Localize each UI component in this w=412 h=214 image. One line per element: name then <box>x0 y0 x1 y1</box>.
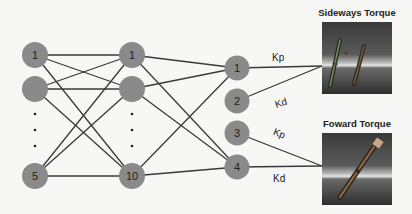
hidden-node-1-label: 1 <box>129 49 135 61</box>
output-layer: 1 2 3 4 <box>225 56 250 180</box>
ellipsis-dot <box>131 145 134 148</box>
neural-network-diagram: 1 5 1 10 1 2 3 <box>0 0 412 214</box>
pole-sideways-icon <box>322 22 392 94</box>
output-node-4-label: 4 <box>234 161 240 173</box>
ellipsis-dot <box>34 145 37 148</box>
kp-label-bottom: Kp <box>272 126 288 141</box>
hidden-node-10-label: 10 <box>126 170 138 182</box>
kp-label-top: Kp <box>272 52 285 63</box>
output-node-1-label: 1 <box>234 62 240 74</box>
input-node-5-label: 5 <box>32 170 38 182</box>
ellipsis-dot <box>34 129 37 132</box>
ellipsis-dot <box>34 113 37 116</box>
input-node-2 <box>22 76 48 102</box>
hidden-layer: 1 10 <box>119 42 145 189</box>
sideways-torque-title: Sideways Torque <box>312 7 402 18</box>
hidden-output-edges <box>132 55 237 176</box>
input-node-1-label: 1 <box>32 49 38 61</box>
forward-torque-title: Foward Torque <box>312 118 402 129</box>
forward-torque-image <box>322 133 392 205</box>
ellipsis-dot <box>131 129 134 132</box>
edge-labels: Kp Kd Kp Kd <box>272 52 289 184</box>
kd-label-bottom: Kd <box>273 173 285 184</box>
input-layer: 1 5 <box>22 42 48 189</box>
output-image-edges <box>237 66 322 167</box>
output-node-3-label: 3 <box>234 127 240 139</box>
sideways-torque-image <box>322 22 392 94</box>
output-node-2-label: 2 <box>234 95 240 107</box>
hidden-node-2 <box>119 76 145 102</box>
ellipsis-dot <box>131 113 134 116</box>
pole-forward-icon <box>322 133 392 205</box>
input-hidden-edges <box>35 55 132 176</box>
kd-label-top: Kd <box>273 96 288 110</box>
